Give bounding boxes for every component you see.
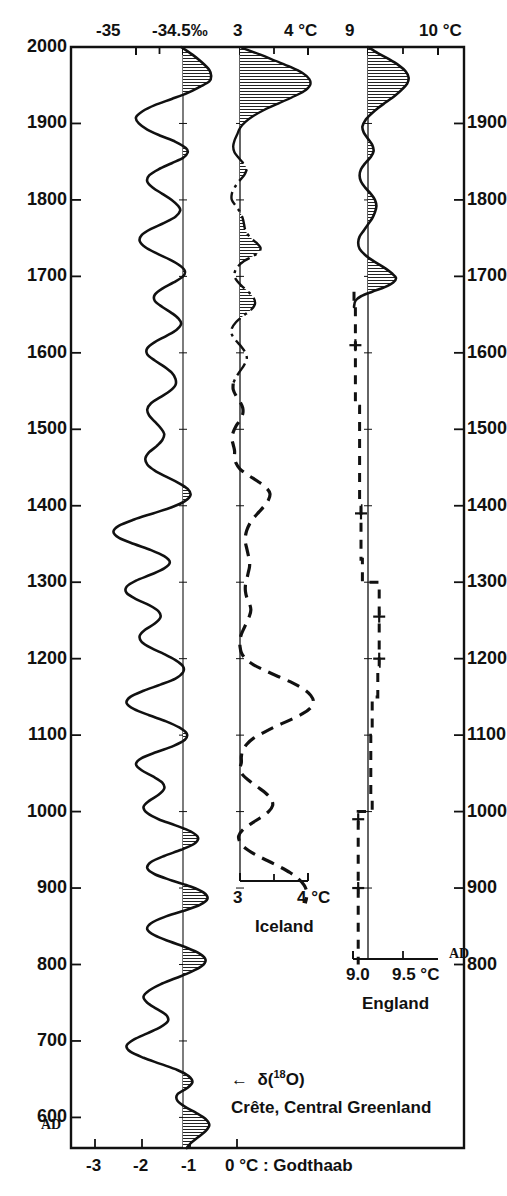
- year-tick-label-right-1200: 1200: [467, 648, 507, 669]
- year-tick-label-right-1800: 1800: [467, 189, 507, 210]
- year-tick-label-600: 600: [37, 1106, 67, 1127]
- year-tick-label-900: 900: [37, 877, 67, 898]
- england-top-tick-1: 9: [345, 21, 354, 41]
- england-bottom-tick-2: 9.5 °C: [392, 965, 439, 985]
- year-tick-label-1500: 1500: [27, 418, 67, 439]
- year-tick-label-right-1400: 1400: [467, 495, 507, 516]
- data-markers: [349, 339, 385, 894]
- year-tick-label-2000: 2000: [27, 36, 67, 57]
- delta-o18-annotation: ← δ(18O): [231, 1068, 305, 1090]
- england-bottom-tick-1: 9.0: [346, 965, 370, 985]
- year-tick-label-1800: 1800: [27, 189, 67, 210]
- year-tick-label-right-1000: 1000: [467, 801, 507, 822]
- england-top-tick-2: 10 °C: [419, 21, 462, 41]
- iceland-bottom-tick-1: 3: [233, 888, 242, 908]
- iceland-panel-title: Iceland: [255, 917, 314, 937]
- year-tick-label-1400: 1400: [27, 495, 67, 516]
- year-tick-label-1200: 1200: [27, 648, 67, 669]
- year-tick-label-right-1700: 1700: [467, 265, 507, 286]
- delta-label-text: δ(18O): [253, 1070, 305, 1089]
- greenland-top-tick-2: -34.5‰: [152, 21, 208, 41]
- year-tick-label-1000: 1000: [27, 801, 67, 822]
- arrow-icon: ←: [231, 1070, 248, 1089]
- year-tick-label-1700: 1700: [27, 265, 67, 286]
- year-tick-label-right-800: 800: [467, 954, 497, 975]
- year-tick-label-1600: 1600: [27, 342, 67, 363]
- year-tick-label-right-900: 900: [467, 877, 497, 898]
- bottom-tick-2: -2: [133, 1156, 148, 1176]
- year-tick-label-700: 700: [37, 1030, 67, 1051]
- year-tick-label-right-1300: 1300: [467, 571, 507, 592]
- year-tick-label-right-1500: 1500: [467, 418, 507, 439]
- greenland-top-tick-1: -35: [96, 21, 121, 41]
- year-tick-label-1900: 1900: [27, 112, 67, 133]
- year-tick-label-right-1600: 1600: [467, 342, 507, 363]
- bottom-tick-3: -1: [181, 1156, 196, 1176]
- year-tick-label-right-1100: 1100: [467, 724, 506, 745]
- iceland-top-tick-1: 3: [233, 21, 242, 41]
- iceland-bottom-tick-2: 4 °C: [297, 888, 330, 908]
- year-tick-label-1300: 1300: [27, 571, 67, 592]
- figure-caption: Crête, Central Greenland: [231, 1098, 431, 1118]
- bottom-tick-1: -3: [86, 1156, 101, 1176]
- england-panel-title: England: [362, 994, 429, 1014]
- year-tick-label-1100: 1100: [28, 724, 67, 745]
- year-tick-label-800: 800: [37, 954, 67, 975]
- year-tick-label-right-1900: 1900: [467, 112, 507, 133]
- bottom-axis-label: 0 °C : Godthaab: [225, 1156, 353, 1176]
- iceland-top-tick-2: 4 °C: [284, 21, 317, 41]
